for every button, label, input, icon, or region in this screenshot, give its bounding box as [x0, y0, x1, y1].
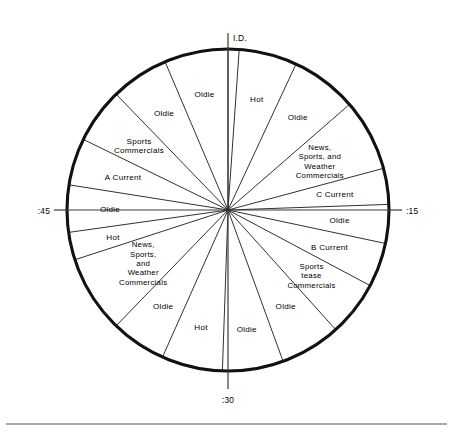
segment-news-sports-weather-commercials-1-label-line-1: Sports, and	[299, 152, 342, 161]
segment-hot-2-label: Hot	[194, 323, 208, 332]
segment-oldie-6-label: Oldie	[100, 205, 120, 214]
segment-sports-tease-commercials-label-line-1: tease	[301, 271, 321, 280]
segment-news-sports-weather-commercials-1-label-line-3: Commercials	[296, 171, 344, 180]
clock-time-mark-top: I.D.	[233, 33, 247, 43]
segment-news-sports-weather-commercials-1-label-line-2: Weather	[304, 162, 335, 171]
segment-oldie-4-label: Oldie	[237, 325, 257, 334]
segment-oldie-2-label-line-0: Oldie	[329, 216, 349, 225]
segment-hot-1-label-line-0: Hot	[250, 95, 264, 104]
segment-news-sports-weather-commercials-2-label-line-3: Weather	[128, 268, 159, 277]
segment-b-current-label: B Current	[311, 243, 348, 252]
segment-news-sports-weather-commercials-1-label-line-0: News,	[308, 143, 331, 152]
segment-oldie-5-label: Oldie	[153, 302, 173, 311]
segment-oldie-8-label-line-0: Oldie	[194, 90, 214, 99]
segment-hot-3-label-line-0: Hot	[106, 233, 120, 242]
segment-oldie-5-label-line-0: Oldie	[153, 302, 173, 311]
segment-news-sports-weather-commercials-2-label-line-4: Commercials	[119, 278, 167, 287]
segment-oldie-6-label-line-0: Oldie	[100, 205, 120, 214]
segment-sports-tease-commercials-label-line-0: Sports	[300, 262, 324, 271]
segment-sports-tease-commercials-label-line-2: Commercials	[287, 281, 335, 290]
clock-time-mark-bottom: :30	[222, 395, 234, 405]
segment-oldie-4-label-line-0: Oldie	[237, 325, 257, 334]
segment-c-current-label-line-0: C Current	[316, 190, 354, 199]
segment-oldie-7-label-line-0: Oldie	[154, 109, 174, 118]
segment-news-sports-weather-commercials-2-label-line-0: News,	[132, 240, 155, 249]
segment-oldie-3-label: Oldie	[276, 302, 296, 311]
segment-sports-commercials-label-line-1: Commercials	[114, 146, 164, 155]
segment-b-current-label-line-0: B Current	[311, 243, 348, 252]
segment-hot-1-label: Hot	[250, 95, 264, 104]
segment-a-current-label: A Current	[105, 173, 142, 182]
segment-oldie-1-label-line-0: Oldie	[288, 113, 308, 122]
segment-hot-2-label-line-0: Hot	[194, 323, 208, 332]
segment-sports-commercials-label-line-0: Sports	[127, 137, 152, 146]
radio-format-clock: HotOldieNews,Sports, andWeatherCommercia…	[0, 0, 453, 440]
segment-c-current-label: C Current	[316, 190, 354, 199]
segment-hot-3-label: Hot	[106, 233, 120, 242]
segment-oldie-2-label: Oldie	[329, 216, 349, 225]
clock-time-mark-left: :45	[38, 206, 50, 216]
segment-oldie-1-label: Oldie	[288, 113, 308, 122]
segment-a-current-label-line-0: A Current	[105, 173, 142, 182]
segment-oldie-8-label: Oldie	[194, 90, 214, 99]
segment-news-sports-weather-commercials-2-label-line-2: and	[136, 259, 150, 268]
segment-oldie-3-label-line-0: Oldie	[276, 302, 296, 311]
segment-oldie-7-label: Oldie	[154, 109, 174, 118]
figure-page: HotOldieNews,Sports, andWeatherCommercia…	[0, 0, 453, 440]
segment-news-sports-weather-commercials-2-label-line-1: Sports,	[130, 250, 156, 259]
clock-time-mark-right: :15	[406, 206, 418, 216]
